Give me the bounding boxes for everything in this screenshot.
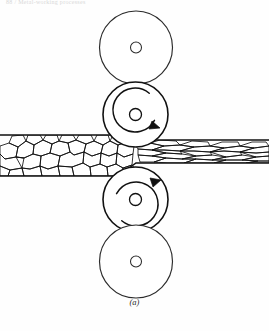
figure-page: 88 / Metal-working processes: [0, 0, 269, 331]
top-work-roll: [103, 81, 168, 147]
bottom-work-roll-hub: [130, 194, 142, 206]
bottom-work-roll: [103, 167, 168, 233]
top-work-roll-hub: [130, 109, 142, 121]
bottom-backup-roll: [100, 225, 173, 298]
top-backup-roll: [100, 11, 173, 84]
figure-caption: (a): [0, 297, 269, 307]
rolling-process-diagram: [0, 0, 269, 331]
top-backup-roll-hub: [131, 42, 142, 53]
bottom-backup-roll-hub: [131, 256, 142, 267]
